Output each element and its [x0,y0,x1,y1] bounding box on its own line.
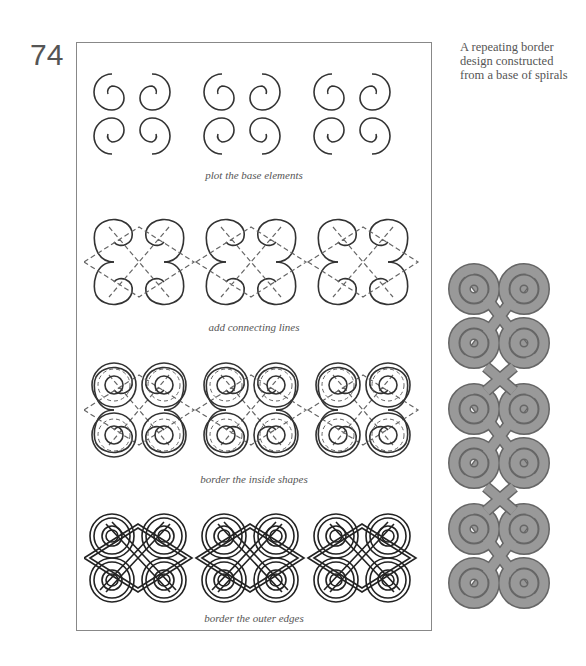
step-caption: plot the base elements [76,169,432,181]
side-note: A repeating border design constructed fr… [460,40,586,82]
side-note-line: from a base of spirals [460,68,586,82]
step-caption: border the outer edges [76,612,432,624]
connecting-lines-illustration [84,207,424,317]
finished-knot-border [446,255,556,635]
base-spirals-illustration [84,64,424,164]
step-caption: border the inside shapes [76,473,432,485]
outer-edges-illustration [84,508,424,608]
side-note-line: design constructed [460,54,586,68]
page-number: 74 [30,38,63,72]
inside-shapes-illustration [84,355,424,465]
side-note-line: A repeating border [460,40,586,54]
step-caption: add connecting lines [76,321,432,333]
